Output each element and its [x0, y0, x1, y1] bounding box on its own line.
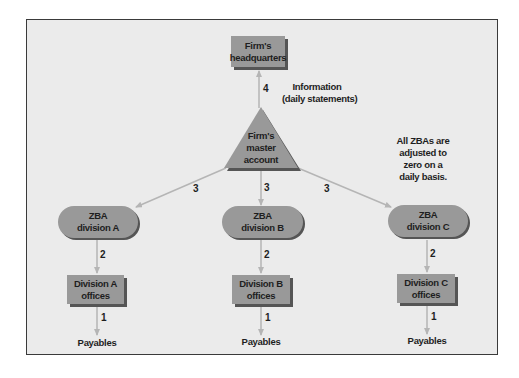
zba-c-line1: ZBA	[407, 209, 449, 221]
payables-b-label: Payables	[231, 336, 291, 348]
headquarters-line2: headquarters	[230, 52, 287, 64]
offices-c-line1: Division C	[404, 277, 447, 289]
master-account-label: Firm's master account	[236, 130, 286, 166]
master-account-line1: Firm's	[236, 130, 286, 142]
edge-label-zba-a-offices: 2	[100, 249, 106, 260]
zba-a-line2: division A	[77, 222, 119, 234]
information-note: Information (daily statements)	[282, 81, 352, 105]
edge-label-master-zba-b: 3	[264, 182, 270, 193]
division-a-offices-node: Division Aoffices	[67, 275, 124, 304]
edge-label-zba-c-offices: 2	[430, 248, 436, 259]
edge-label-offices-c-payables: 1	[431, 311, 437, 322]
master-account-line3: account	[236, 154, 286, 166]
offices-b-line2: offices	[239, 290, 282, 302]
offices-a-line1: Division A	[74, 278, 117, 290]
zba-a-line1: ZBA	[77, 210, 119, 222]
division-b-offices-node: Division Boffices	[232, 275, 290, 304]
edge-label-master-hq: 4	[263, 83, 269, 94]
offices-b-line1: Division B	[239, 278, 282, 290]
zba-note-line3: zero on a	[391, 159, 455, 171]
zba-note-line4: daily basis.	[391, 171, 455, 183]
offices-c-line2: offices	[404, 289, 447, 301]
edge-label-zba-b-offices: 2	[264, 249, 270, 260]
division-c-offices-node: Division Coffices	[397, 274, 455, 303]
edge-label-master-zba-c: 3	[324, 183, 330, 194]
information-note-line1: Information	[282, 81, 352, 93]
zba-b-line2: division B	[241, 222, 283, 234]
zba-note-line1: All ZBAs are	[391, 135, 455, 147]
zba-division-c-node: ZBAdivision C	[388, 205, 468, 237]
information-note-line2: (daily statements)	[282, 93, 352, 105]
edge-label-master-zba-a: 3	[193, 183, 199, 194]
arrow-master-to-zba-a	[136, 168, 226, 207]
headquarters-node: Firm's headquarters	[231, 36, 285, 67]
zba-note: All ZBAs are adjusted to zero on a daily…	[391, 135, 455, 183]
headquarters-line1: Firm's	[230, 40, 287, 52]
zba-note-line2: adjusted to	[391, 147, 455, 159]
zba-division-b-node: ZBAdivision B	[222, 206, 303, 238]
master-account-line2: master	[236, 142, 286, 154]
zba-b-line1: ZBA	[241, 210, 283, 222]
arrow-master-to-zba-c	[298, 168, 391, 207]
zba-c-line2: division C	[407, 221, 449, 233]
edge-label-offices-b-payables: 1	[265, 312, 271, 323]
payables-a-label: Payables	[67, 337, 127, 349]
edge-label-offices-a-payables: 1	[101, 312, 107, 323]
offices-a-line2: offices	[74, 290, 117, 302]
zba-division-a-node: ZBAdivision A	[58, 206, 138, 238]
payables-c-label: Payables	[397, 335, 457, 347]
